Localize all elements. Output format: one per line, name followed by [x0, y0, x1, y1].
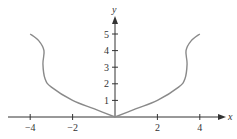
- y-tick-label: 4: [104, 45, 109, 56]
- x-tick-label: −2: [67, 122, 78, 133]
- y-tick-label: 1: [104, 95, 109, 106]
- x-axis: x: [8, 111, 233, 122]
- y-tick-label: 2: [104, 78, 109, 89]
- x-axis-label: x: [227, 111, 233, 122]
- x-tick-label: −4: [25, 122, 36, 133]
- y-axis-label: y: [111, 4, 117, 15]
- y-axis-arrow-icon: [112, 16, 118, 24]
- y-ticks: 12345: [104, 29, 118, 106]
- x-tick-label: 2: [155, 122, 160, 133]
- x-tick-label: 4: [197, 122, 202, 133]
- y-tick-label: 3: [104, 62, 109, 73]
- chart: x y −4−224 12345: [0, 0, 237, 139]
- y-tick-label: 5: [104, 29, 109, 40]
- x-axis-arrow-icon: [218, 114, 226, 120]
